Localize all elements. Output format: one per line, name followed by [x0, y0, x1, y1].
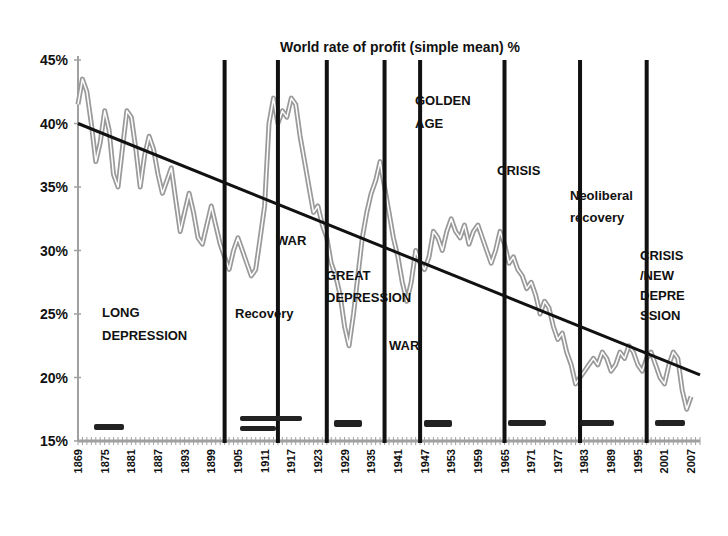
- x-tick-label: 1917: [285, 449, 297, 473]
- x-tick-label: 1893: [179, 449, 191, 473]
- period-tag-blob: [240, 426, 276, 431]
- y-tick-label: 20%: [40, 370, 69, 386]
- x-tick-label: 2007: [685, 449, 697, 473]
- x-tick-label: 1929: [339, 449, 351, 473]
- x-tick-label: 1887: [152, 449, 164, 473]
- x-tick-label: 1995: [632, 449, 644, 473]
- y-tick-label: 40%: [40, 116, 69, 132]
- annotation-great-depression-line2: DEPRESSION: [326, 290, 411, 305]
- y-tick-label: 35%: [40, 179, 69, 195]
- x-tick-label: 1899: [205, 449, 217, 473]
- x-tick-label: 1869: [72, 449, 84, 473]
- period-tag-blob: [94, 424, 124, 430]
- annotation-golden-age-line1: GOLDEN: [415, 93, 471, 108]
- y-tick-label: 30%: [40, 243, 69, 259]
- period-tag-blob: [508, 420, 546, 426]
- x-tick-label: 1989: [605, 449, 617, 473]
- annotation-crisis-new-line2: /NEW: [640, 268, 675, 283]
- annotation-golden-age-line2: AGE: [415, 116, 444, 131]
- x-tick-label: 1983: [578, 449, 590, 473]
- chart-title: World rate of profit (simple mean) %: [280, 39, 521, 55]
- x-tick-label: 1947: [419, 449, 431, 473]
- period-tag-blob: [240, 416, 302, 421]
- annotation-crisis-new-line4: SSION: [640, 308, 680, 323]
- x-tick-label: 1923: [312, 449, 324, 473]
- x-tick-label: 1875: [99, 449, 111, 473]
- annotation-neoliberal-line2: recovery: [570, 210, 625, 225]
- x-tick-label: 1965: [499, 449, 511, 473]
- annotation-crisis-new-line1: CRISIS: [640, 248, 684, 263]
- annotation-long-depression-line1: LONG: [102, 305, 140, 320]
- y-axis: 15%20%25%30%35%40%45%: [40, 52, 81, 449]
- x-tick-label: 1977: [552, 449, 564, 473]
- period-tag-blob: [334, 420, 362, 427]
- annotation-long-depression-line2: DEPRESSION: [102, 328, 187, 343]
- x-tick-label: 1881: [125, 449, 137, 473]
- y-tick-label: 25%: [40, 306, 69, 322]
- period-tag-blob: [424, 420, 452, 427]
- x-tick-label: 1959: [472, 449, 484, 473]
- x-tick-label: 1941: [392, 449, 404, 473]
- annotation-neoliberal-line1: Neoliberal: [570, 188, 633, 203]
- x-tick-label: 1911: [259, 449, 271, 473]
- x-tick-label: 2001: [658, 449, 670, 473]
- period-tag-blob: [655, 420, 685, 426]
- period-tag-blob: [580, 420, 614, 426]
- illegible-period-tags: [94, 416, 685, 431]
- x-tick-label: 1971: [525, 449, 537, 473]
- profit-rate-chart: World rate of profit (simple mean) % 15%…: [0, 0, 728, 536]
- annotation-great-depression-line1: GREAT: [326, 268, 371, 283]
- y-tick-label: 15%: [40, 433, 69, 449]
- y-tick-label: 45%: [40, 52, 69, 68]
- x-tick-label: 1905: [232, 449, 244, 473]
- x-tick-label: 1935: [365, 449, 377, 473]
- annotation-war-1: WAR: [276, 233, 307, 248]
- annotations: LONG DEPRESSION Recovery WAR GREAT DEPRE…: [102, 93, 685, 353]
- annotation-crisis: CRISIS: [497, 163, 541, 178]
- annotation-recovery: Recovery: [235, 306, 294, 321]
- annotation-crisis-new-line3: DEPRE: [640, 288, 685, 303]
- x-tick-label: 1953: [445, 449, 457, 473]
- annotation-war-2: WAR: [389, 338, 420, 353]
